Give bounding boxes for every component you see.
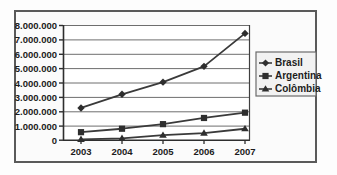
- y-label-0: 0: [52, 135, 57, 146]
- datapoint-argentina-2004: [119, 126, 125, 132]
- datapoint-argentina-2006: [201, 115, 207, 121]
- y-tick-marks: [59, 26, 63, 141]
- chart-figure: 8.000.000 7.000.000 6.000.000 5.000.000 …: [0, 0, 337, 175]
- y-label-7000000: 7.000.000: [15, 34, 57, 45]
- legend-label-argentina: Argentina: [275, 70, 322, 81]
- datapoint-argentina-2005: [160, 121, 166, 127]
- y-label-6000000: 6.000.000: [15, 49, 57, 60]
- datapoint-argentina-2003: [78, 129, 84, 135]
- x-label-2007: 2007: [234, 146, 255, 157]
- y-label-5000000: 5.000.000: [15, 63, 57, 74]
- x-label-2004: 2004: [111, 146, 133, 157]
- x-label-2006: 2006: [193, 146, 214, 157]
- chart-svg: 8.000.000 7.000.000 6.000.000 5.000.000 …: [0, 0, 337, 175]
- y-label-1000000: 1.000.000: [15, 121, 57, 132]
- legend-label-brasil: Brasil: [275, 57, 303, 68]
- x-axis-labels: 2003 2004 2005 2006 2007: [70, 146, 255, 157]
- y-axis-labels: 8.000.000 7.000.000 6.000.000 5.000.000 …: [15, 20, 57, 146]
- y-label-4000000: 4.000.000: [15, 78, 57, 89]
- y-label-3000000: 3.000.000: [15, 92, 57, 103]
- x-label-2003: 2003: [70, 146, 91, 157]
- y-label-8000000: 8.000.000: [15, 20, 57, 31]
- square-marker-icon: [262, 73, 268, 79]
- legend-label-colombia: Colômbia: [275, 83, 321, 94]
- y-label-2000000: 2.000.000: [15, 106, 57, 117]
- x-label-2005: 2005: [152, 146, 174, 157]
- line-chart: 8.000.000 7.000.000 6.000.000 5.000.000 …: [0, 0, 337, 175]
- chart-legend: Brasil Argentina Colômbia: [256, 52, 322, 96]
- datapoint-argentina-2007: [242, 110, 248, 116]
